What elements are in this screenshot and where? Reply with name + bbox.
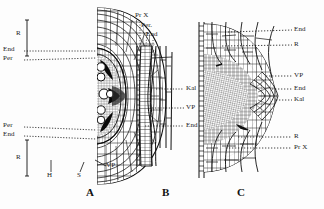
panel-a-label-vp: VP [106, 162, 115, 169]
panel-letter-c: C [237, 186, 245, 198]
panel-c-label-end-mid: End [294, 85, 306, 92]
panel-c-label-vp: VP [294, 72, 303, 79]
panel-a-label-h: H [47, 172, 52, 179]
panel-a-label-r-lower: R [16, 154, 21, 161]
panel-c-label-kal: Kal [294, 96, 304, 103]
panel-b-label-end-lower: End [186, 122, 198, 129]
panel-c-label-r-top: R [294, 41, 299, 48]
panel-c-label-end-top: End [294, 26, 306, 33]
panel-c-drawing [199, 22, 292, 178]
panel-b-label-vp: VP [186, 104, 195, 111]
panel-a-label-per-upper: Per [3, 55, 13, 62]
panel-c-label-prx: Pr X [294, 144, 307, 151]
panel-c-label-r-bot: R [294, 133, 299, 140]
panel-a-label-per-lower: Per [3, 122, 13, 129]
panel-b-label-per: Per. [141, 22, 152, 29]
figure-plate: R End Per Per End R H S VP Pr X Per. End… [0, 0, 324, 209]
panel-b-label-prx: Pr X [135, 12, 148, 19]
panel-a-label-end-upper: End [3, 46, 15, 53]
panel-b-label-kal: Kal [186, 85, 196, 92]
panel-letter-b: B [162, 186, 169, 198]
panel-a-label-r-upper: R [16, 30, 21, 37]
panel-a-label-end-lower: End [3, 131, 15, 138]
panel-a-leaders [24, 51, 96, 139]
panel-a-brackets [25, 20, 29, 176]
panel-letter-a: A [86, 186, 94, 198]
panel-b-label-end: End [146, 31, 158, 38]
panel-a-label-s: S [77, 172, 81, 179]
